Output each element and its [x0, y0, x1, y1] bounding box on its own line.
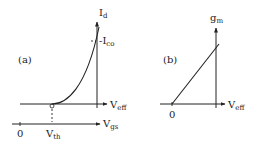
vth-label: Vth — [45, 128, 61, 141]
panel-a-label: (a) — [18, 54, 32, 65]
gm-axis-label: gm — [210, 12, 223, 25]
origin-label-b: 0 — [169, 109, 175, 120]
id-axis-label: Id — [99, 7, 108, 20]
id-curve — [52, 27, 99, 104]
threshold-point — [50, 104, 54, 108]
ico-label: -Ico — [99, 35, 114, 48]
origin-label-a: 0 — [17, 128, 23, 139]
panel-a: (a) Id -Ico Veff Vgs 0 Vth — [12, 7, 127, 141]
gm-line — [172, 44, 219, 104]
panel-b-label: (b) — [163, 54, 177, 65]
diagram: (a) Id -Ico Veff Vgs 0 Vth (b) gm Veff 0 — [0, 0, 262, 142]
veff-axis-label-b: Veff — [227, 99, 245, 112]
vgs-axis-label: Vgs — [102, 118, 119, 131]
veff-axis-label-a: Veff — [109, 99, 127, 112]
panel-b: (b) gm Veff 0 — [160, 12, 245, 120]
